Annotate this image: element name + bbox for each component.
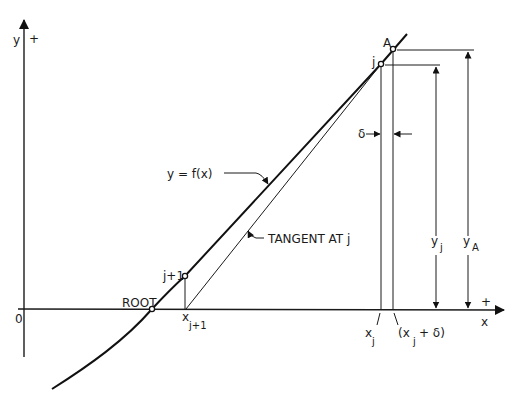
y-axis-label: y [13, 33, 20, 47]
y-j-dimension: y j [431, 67, 443, 308]
x-axis-sign: + [481, 295, 491, 309]
y-a-label: y [463, 234, 470, 248]
x-j-label: x j [365, 313, 380, 347]
j-plus-1-label: j+1 [162, 269, 184, 283]
curve-label: y = f(x) [167, 167, 212, 181]
svg-text:j+1: j+1 [188, 320, 207, 331]
x-axis: 0 + x [15, 295, 504, 329]
svg-text:j: j [371, 336, 375, 347]
x-axis-line [18, 309, 504, 310]
y-a-subscript: A [472, 242, 479, 253]
origin-label: 0 [15, 312, 23, 326]
x-j-plus-delta-label: (x j + δ) [394, 313, 445, 347]
y-j-label: y [431, 234, 438, 248]
delta-dimension: δ [358, 127, 412, 141]
function-curve [52, 34, 407, 389]
svg-text:j: j [412, 336, 416, 347]
tangent-label: TANGENT AT j [267, 232, 350, 246]
tangent-line [186, 64, 381, 309]
delta-label: δ [358, 127, 365, 141]
tangent-leader [248, 231, 264, 238]
y-axis: y + [13, 20, 39, 357]
svg-text:(x: (x [398, 326, 410, 340]
a-label: A [383, 36, 392, 50]
x-j-plus-1-label: x j+1 [182, 310, 207, 331]
svg-text:+ δ): + δ) [419, 326, 445, 340]
x-axis-label: x [481, 315, 488, 329]
tangent-label-group: TANGENT AT j [248, 231, 350, 246]
root-label: ROOT [122, 296, 157, 310]
j-point [378, 61, 383, 66]
y-axis-sign: + [29, 32, 39, 46]
j-label: j [371, 55, 375, 69]
newton-raphson-diagram: y + 0 + x y j y A δ ROO [0, 0, 522, 401]
y-a-dimension: y A [463, 52, 479, 308]
y-j-subscript: j [439, 242, 443, 253]
curve-leader [224, 173, 268, 184]
curve-label-group: y = f(x) [167, 167, 268, 184]
